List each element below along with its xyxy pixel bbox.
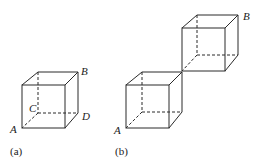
cube-a-label-B: B (81, 65, 88, 77)
cube-a-right-face (65, 72, 78, 128)
cube-a: A B C D (a) (9, 65, 90, 158)
cube-b-lower-front-face (126, 85, 169, 128)
cube-b-lower-top-face (126, 72, 182, 85)
cube-b-upper-right-face (225, 15, 238, 71)
cube-b-label-A: A (113, 124, 121, 136)
caption-b: (b) (115, 145, 128, 158)
cube-b-lower (126, 72, 182, 128)
cube-b-lower-right-face (169, 72, 182, 128)
cube-b-upper (182, 15, 238, 71)
cube-a-label-C: C (29, 102, 37, 114)
caption-a: (a) (10, 145, 23, 158)
cube-a-top-face (22, 72, 78, 85)
cube-b-upper-hidden-diagonal (182, 55, 197, 71)
cube-b-lower-hidden-diagonal (126, 112, 142, 128)
cube-a-label-A: A (9, 123, 17, 135)
cube-diagram: A B C D (a) A B (b) (0, 0, 259, 163)
cube-a-hidden-diagonal (22, 113, 38, 128)
cube-b-label-B: B (243, 10, 250, 22)
cube-b-upper-top-face (182, 15, 238, 28)
cube-a-label-D: D (81, 110, 90, 122)
